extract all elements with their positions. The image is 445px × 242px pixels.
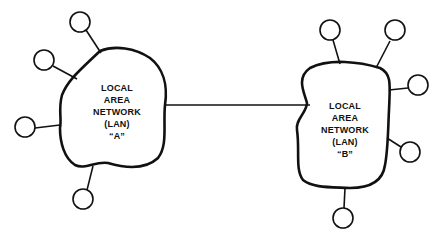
label-line: NETWORK <box>82 106 152 118</box>
lan-b-node <box>400 142 420 162</box>
lan-a-node <box>70 12 90 32</box>
label-line: AREA <box>305 112 385 124</box>
label-line: LOCAL <box>305 100 385 112</box>
label-line: NETWORK <box>305 124 385 136</box>
lan-b-node <box>408 75 428 95</box>
lan-a-label: LOCAL AREA NETWORK (LAN) “A” <box>82 82 152 142</box>
lan-b-node <box>385 20 405 40</box>
label-line: “A” <box>82 130 152 142</box>
lan-a-node <box>34 50 54 70</box>
lan-a-node <box>73 189 93 209</box>
lan-b-node <box>320 20 340 40</box>
lan-b-label: LOCAL AREA NETWORK (LAN) “B” <box>305 100 385 160</box>
label-line: (LAN) <box>305 136 385 148</box>
lan-b-node <box>333 208 353 228</box>
lan-a-node <box>15 117 35 137</box>
label-line: AREA <box>82 94 152 106</box>
label-line: “B” <box>305 148 385 160</box>
label-line: LOCAL <box>82 82 152 94</box>
label-line: (LAN) <box>82 118 152 130</box>
